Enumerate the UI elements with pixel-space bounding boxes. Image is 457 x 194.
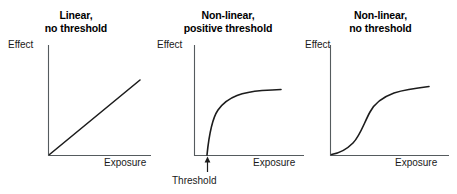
axes-panel1 — [49, 45, 152, 156]
panel-nonlinear-no-threshold: Non-linear, no threshold Effect Exposure — [304, 0, 457, 194]
curve-linear — [50, 80, 141, 155]
axes-panel2 — [195, 45, 305, 156]
panel-nonlinear-positive-threshold: Non-linear, positive threshold Effect Ex… — [152, 0, 304, 194]
plot-area-panel3 — [304, 0, 457, 194]
dose-response-figure: Linear, no threshold Effect Exposure Non… — [0, 0, 457, 194]
plot-area-panel2 — [152, 0, 304, 194]
axes-panel3 — [331, 45, 450, 156]
threshold-arrow-head — [205, 157, 211, 163]
panel-linear-no-threshold: Linear, no threshold Effect Exposure — [0, 0, 152, 194]
curve-sigmoid — [332, 87, 430, 155]
plot-area-panel1 — [0, 0, 152, 194]
curve-saturating — [207, 90, 281, 156]
